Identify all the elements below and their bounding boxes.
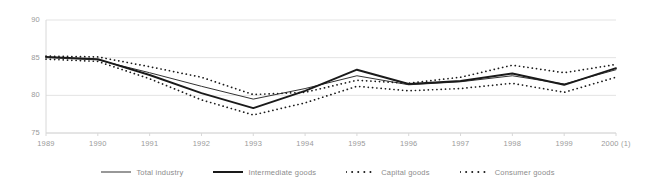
legend-label: Intermediate goods: [248, 168, 316, 177]
legend-label: Capital goods: [381, 168, 429, 177]
x-tick-label: 1998: [504, 139, 522, 149]
x-tick-label: 1994: [296, 139, 314, 149]
legend-item-total-industry[interactable]: Total industry: [101, 168, 183, 177]
x-axis: 1989199019911992199319941995199619971998…: [46, 139, 616, 153]
plot-area: [46, 20, 616, 133]
x-tick-label: 2000 (1): [601, 139, 631, 149]
legend-swatch-solid-thin: [101, 168, 131, 176]
capacity-utilisation-line-chart: 90858075 1989199019911992199319941995199…: [0, 0, 656, 185]
x-tick-label: 1997: [452, 139, 470, 149]
y-tick-label: 90: [14, 16, 40, 24]
legend-label: Total industry: [136, 168, 183, 177]
series-lines: [46, 56, 616, 115]
y-tick-label: 80: [14, 91, 40, 99]
legend-item-consumer-goods[interactable]: Consumer goods: [460, 168, 555, 177]
legend-label: Consumer goods: [495, 168, 555, 177]
series-line-consumer-goods: [46, 59, 616, 115]
legend-swatch-dotted: [346, 168, 376, 176]
x-tick-label: 1993: [245, 139, 263, 149]
legend-item-capital-goods[interactable]: Capital goods: [346, 168, 429, 177]
legend-item-intermediate-goods[interactable]: Intermediate goods: [213, 168, 316, 177]
x-tick-label: 1990: [89, 139, 107, 149]
series-line-capital-goods: [46, 56, 616, 94]
x-tick-label: 1995: [348, 139, 366, 149]
y-axis: 90858075: [8, 0, 40, 185]
plot-svg: [46, 20, 616, 133]
x-tick-label: 1991: [141, 139, 159, 149]
x-tick-label: 1989: [37, 139, 55, 149]
x-tick-label: 1992: [193, 139, 211, 149]
y-tick-label: 75: [14, 129, 40, 137]
chart-legend: Total industryIntermediate goodsCapital …: [0, 164, 656, 180]
x-tick-label: 1996: [400, 139, 418, 149]
legend-swatch-solid-thick: [213, 168, 243, 176]
legend-swatch-dotted: [460, 168, 490, 176]
y-tick-label: 85: [14, 54, 40, 62]
x-tick-label: 1999: [555, 139, 573, 149]
